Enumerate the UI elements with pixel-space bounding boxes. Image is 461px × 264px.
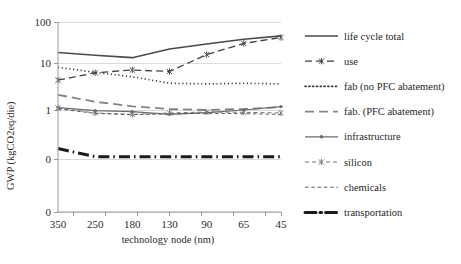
y-tick-label: 10	[40, 57, 52, 69]
series-line	[58, 36, 281, 58]
y-tick-label: 1	[46, 104, 52, 116]
series-use	[55, 34, 283, 83]
legend-label: chemicals	[344, 182, 386, 193]
legend-marker	[320, 135, 324, 139]
x-tick-label: 130	[161, 218, 178, 230]
data-point-marker	[278, 34, 283, 40]
y-tick-label: 0	[46, 206, 52, 218]
y-axis-tick-labels: 10010100	[35, 16, 52, 218]
gridlines	[58, 22, 281, 212]
gwp-line-chart: 350250180130906545 10010100 life cycle t…	[0, 0, 461, 264]
x-tick-label: 350	[50, 218, 67, 230]
chart-legend: life cycle totalusefab (no PFC abatement…	[305, 31, 445, 218]
series-silicon	[55, 105, 283, 118]
series-life-cycle-total	[58, 36, 281, 58]
legend-label: transportation	[344, 207, 403, 218]
x-axis-title: technology node (nm)	[122, 234, 215, 246]
legend-label: fab. (PFC abatement)	[344, 106, 435, 118]
legend-label: silicon	[344, 157, 373, 168]
series-line	[58, 149, 281, 157]
series-transportation	[58, 149, 281, 157]
legend-label: fab (no PFC abatement)	[344, 81, 445, 93]
legend-item-use[interactable]: use	[305, 56, 358, 67]
data-point-marker	[130, 67, 135, 73]
x-axis-tick-labels: 350250180130906545	[50, 218, 287, 230]
x-tick-label: 65	[238, 218, 250, 230]
legend-item-fab-no-pfc-abatement[interactable]: fab (no PFC abatement)	[305, 81, 445, 93]
series-line	[58, 95, 281, 110]
legend-label: use	[344, 56, 358, 67]
legend-label: infrastructure	[344, 131, 401, 142]
legend-item-silicon[interactable]: silicon	[305, 157, 373, 168]
y-tick-label: 0	[46, 153, 52, 165]
legend-item-fab-pfc-abatement[interactable]: fab. (PFC abatement)	[305, 106, 435, 118]
series-layer	[55, 34, 283, 156]
y-axis-title: GWP (kgCO2eq/die)	[5, 101, 17, 190]
legend-item-infrastructure[interactable]: infrastructure	[305, 131, 401, 142]
chart-figure: 350250180130906545 10010100 life cycle t…	[0, 0, 461, 264]
series-fab-pfc-abatement	[58, 95, 281, 110]
legend-item-chemicals[interactable]: chemicals	[305, 182, 386, 193]
legend-item-transportation[interactable]: transportation	[305, 207, 403, 218]
axes-layer	[54, 22, 281, 216]
x-tick-label: 45	[276, 218, 288, 230]
legend-label: life cycle total	[344, 31, 404, 42]
data-point-marker	[279, 105, 282, 108]
y-tick-label: 100	[35, 16, 52, 28]
legend-item-life-cycle-total[interactable]: life cycle total	[305, 31, 404, 42]
x-tick-label: 90	[201, 218, 213, 230]
x-tick-label: 250	[87, 218, 104, 230]
data-point-marker	[278, 110, 283, 116]
x-tick-label: 180	[124, 218, 141, 230]
